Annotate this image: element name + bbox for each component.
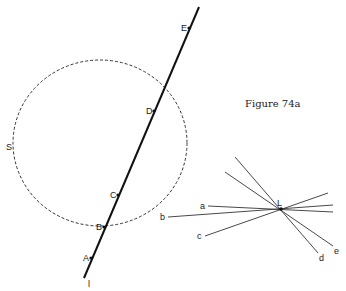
pencil-line-a: [208, 206, 333, 212]
line-l-label: l: [88, 279, 90, 289]
figure-caption: Figure 74a: [245, 98, 301, 109]
pencil-label-c: c: [197, 231, 202, 241]
pencil-label-b: b: [160, 212, 165, 222]
figure-canvas: S l ABCDE abcde L Figure 74a: [0, 0, 346, 291]
line-points: ABCDE: [83, 23, 191, 263]
point-e: [187, 26, 190, 29]
point-label-b: B: [96, 222, 102, 232]
pencil-label-a: a: [200, 201, 205, 211]
point-label-d: D: [146, 106, 153, 116]
circle-label: S: [6, 142, 12, 152]
point-label-e: E: [181, 23, 187, 33]
point-a: [89, 256, 92, 259]
point-c: [116, 193, 119, 196]
pencil-line-e: [225, 172, 333, 246]
point-label-c: C: [110, 190, 117, 200]
point-b: [102, 225, 105, 228]
pencil-label-d: d: [319, 253, 324, 263]
line-l: [84, 7, 199, 278]
pencil-label-e: e: [334, 246, 339, 256]
center-label-l: L: [277, 198, 282, 208]
circle-s: [13, 60, 187, 226]
pencil-of-lines: abcde: [160, 157, 339, 263]
point-label-a: A: [83, 253, 89, 263]
point-d: [152, 109, 155, 112]
